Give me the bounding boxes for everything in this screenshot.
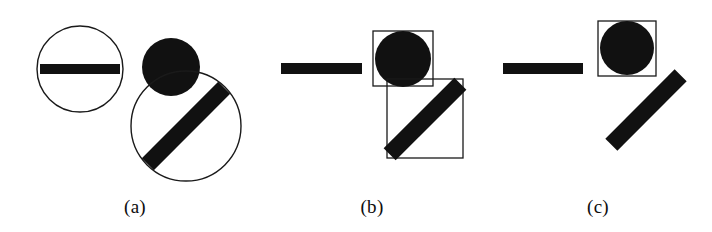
panel-b <box>281 31 466 160</box>
panel-label-c: (c) <box>568 196 628 218</box>
bar-horizontal <box>40 64 120 74</box>
bar-diagonal <box>384 78 467 161</box>
disc-filled <box>142 38 200 96</box>
panel-a <box>37 26 241 181</box>
disc-filled <box>600 21 654 75</box>
panel-label-b: (b) <box>342 196 402 218</box>
bar-horizontal <box>503 63 583 74</box>
figure-canvas: (a) (b) (c) <box>0 0 712 232</box>
bar-diagonal <box>605 69 686 150</box>
bar-horizontal <box>281 63 362 74</box>
bar-diagonal <box>142 82 230 170</box>
panel-label-a: (a) <box>105 196 165 218</box>
panel-c <box>503 21 687 151</box>
